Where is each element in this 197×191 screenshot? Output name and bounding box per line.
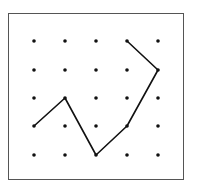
grid-dot xyxy=(156,39,160,43)
grid-dot xyxy=(94,153,98,157)
grid-dot xyxy=(63,39,67,43)
grid-dot xyxy=(32,68,36,72)
grid-dot xyxy=(32,96,36,100)
grid-dot xyxy=(94,39,98,43)
grid-dot xyxy=(156,68,160,72)
grid-dot xyxy=(63,68,67,72)
grid-dot xyxy=(32,153,36,157)
grid-dot xyxy=(156,153,160,157)
grid-dot xyxy=(94,96,98,100)
grid-dot xyxy=(63,153,67,157)
grid-dot xyxy=(63,124,67,128)
grid-dot xyxy=(32,39,36,43)
grid-dot xyxy=(94,68,98,72)
dot-grid-diagram xyxy=(0,0,197,191)
grid-dot xyxy=(156,96,160,100)
grid-dot xyxy=(156,124,160,128)
grid-dot xyxy=(125,39,129,43)
grid-dot xyxy=(94,124,98,128)
grid-dot xyxy=(63,96,67,100)
grid-dot xyxy=(125,96,129,100)
grid-dot xyxy=(125,124,129,128)
grid-dot xyxy=(125,68,129,72)
grid-dot xyxy=(32,124,36,128)
grid-dot xyxy=(125,153,129,157)
